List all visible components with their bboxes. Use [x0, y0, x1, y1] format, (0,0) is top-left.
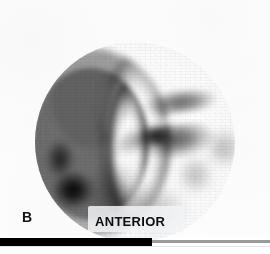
figure-footer-rules	[0, 238, 270, 246]
scintigraphy-figure: B ANTERIOR	[0, 0, 270, 254]
scan-plate: B ANTERIOR	[0, 0, 270, 236]
light-rule	[152, 240, 270, 243]
hairline-rule	[0, 246, 270, 247]
orientation-label-icon: ANTERIOR	[95, 215, 165, 228]
panel-letter-icon: B	[22, 210, 32, 224]
heavy-rule	[0, 238, 152, 246]
